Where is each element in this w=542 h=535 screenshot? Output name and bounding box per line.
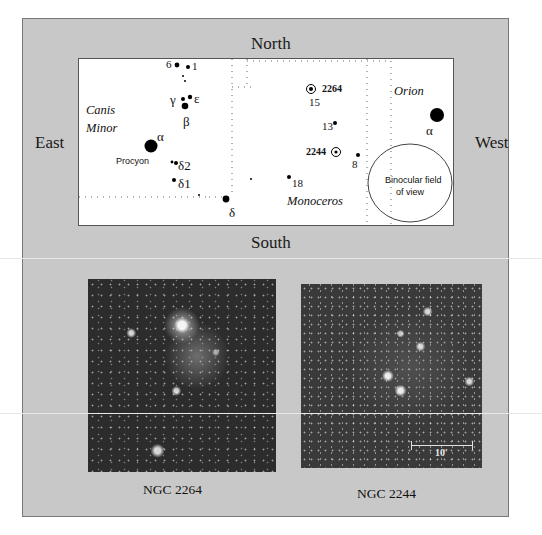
star-label-13: 13 — [322, 120, 333, 132]
star-label-gamma: γ — [170, 92, 176, 108]
scale-bar-left-tick — [411, 441, 412, 450]
star-label-alpha-cmi: α — [157, 129, 164, 145]
star-label-15: 15 — [309, 96, 320, 108]
star-label-6: 6 — [166, 58, 172, 70]
star-chart: 6 1 γ ε β Canis Minor α Procyon δ2 δ1 δ … — [78, 58, 454, 226]
ngc-2244-photo: 10' — [301, 284, 482, 468]
star-label-beta: β — [183, 114, 190, 130]
cluster-label-2244: 2244 — [306, 146, 326, 157]
constellation-monoceros-label: Monoceros — [287, 194, 343, 209]
west-label: West — [475, 133, 509, 153]
scale-bar-right-tick — [472, 441, 473, 450]
south-label: South — [251, 233, 291, 253]
north-label: North — [251, 34, 291, 54]
constellation-minor-label: Minor — [86, 121, 117, 136]
ngc-2264-caption: NGC 2264 — [143, 482, 202, 498]
star-label-procyon: Procyon — [116, 156, 149, 166]
star-label-delta-mon: δ — [229, 205, 235, 221]
star-label-18: 18 — [292, 177, 303, 189]
scale-bar-label: 10' — [435, 447, 448, 458]
star-label-8: 8 — [352, 158, 358, 170]
star-label-epsilon: ε — [194, 91, 199, 107]
constellation-orion-label: Orion — [394, 84, 424, 99]
binocular-field-label-line2: of view — [385, 187, 435, 197]
star-label-delta1: δ1 — [178, 176, 191, 192]
binocular-field-label-line1: Binocular field — [385, 175, 435, 185]
cluster-label-2264: 2264 — [322, 83, 342, 94]
star-label-alpha-ori: α — [426, 123, 433, 139]
scale-bar — [411, 445, 473, 446]
ngc-2264-photo — [88, 279, 276, 472]
constellation-boundaries — [79, 59, 391, 225]
scan-line — [0, 413, 542, 414]
star-label-delta2: δ2 — [178, 158, 191, 174]
ngc-2244-caption: NGC 2244 — [357, 486, 416, 502]
scan-line — [0, 258, 542, 259]
star-label-1: 1 — [192, 60, 198, 72]
constellation-canis-label: Canis — [86, 103, 115, 118]
east-label: East — [35, 133, 64, 153]
